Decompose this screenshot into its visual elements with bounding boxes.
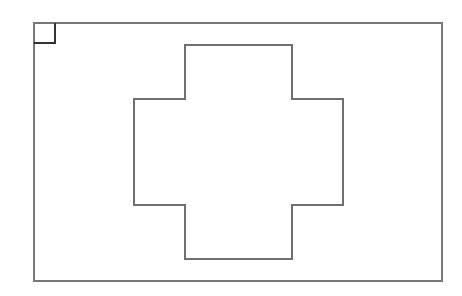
- cross-shape: [134, 45, 343, 259]
- diagram-canvas: [0, 0, 462, 296]
- corner-marker: [34, 23, 55, 43]
- outer-frame: [34, 23, 442, 281]
